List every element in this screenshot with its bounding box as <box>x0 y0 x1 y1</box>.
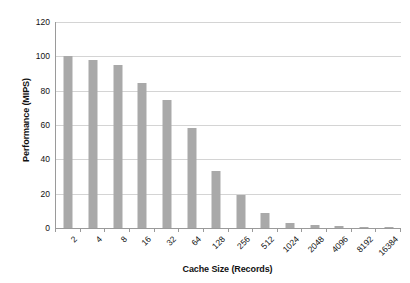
x-axis-tick <box>277 228 278 232</box>
bar-slot <box>352 22 377 228</box>
x-axis-tick <box>154 228 155 232</box>
x-axis-tick-label: 2 <box>69 234 79 244</box>
x-axis-tick-label: 512 <box>259 234 276 251</box>
x-axis-title: Cache Size (Records) <box>55 264 400 274</box>
x-axis-tick-label: 4 <box>94 234 104 244</box>
x-axis-tick-label: 8192 <box>355 234 375 254</box>
x-axis-tick <box>129 228 130 232</box>
y-axis-tick-label: 60 <box>20 120 50 130</box>
x-axis-tick-labels: 248163264128256512102420484096819216384 <box>55 234 400 264</box>
y-axis-tick-label: 100 <box>20 51 50 61</box>
plot-area <box>55 22 401 229</box>
bar <box>138 83 147 228</box>
x-axis-tick <box>301 228 302 232</box>
y-axis-tick-label: 0 <box>20 223 50 233</box>
x-axis-tick <box>80 228 81 232</box>
bar-slot <box>229 22 254 228</box>
y-axis-tick-label: 80 <box>20 86 50 96</box>
y-axis-tick-label: 20 <box>20 189 50 199</box>
bar-slot <box>81 22 106 228</box>
x-axis-tick <box>178 228 179 232</box>
x-axis-tick-label: 4096 <box>330 234 350 254</box>
x-axis-tick-label: 8 <box>118 234 128 244</box>
bar <box>187 128 196 228</box>
bar <box>212 171 221 228</box>
bar-chart: Performance (MIPS) 020406080100120 24816… <box>0 0 410 283</box>
y-axis-tick-labels: 020406080100120 <box>20 0 50 283</box>
bar <box>64 56 73 228</box>
bar <box>162 100 171 228</box>
x-axis-ticks <box>55 228 400 233</box>
x-axis-tick <box>351 228 352 232</box>
bar <box>236 195 245 228</box>
bar-slot <box>179 22 204 228</box>
bar <box>261 213 270 228</box>
x-axis-tick <box>203 228 204 232</box>
x-axis-tick <box>104 228 105 232</box>
bar <box>88 60 97 228</box>
x-axis-tick-label: 16 <box>140 234 154 248</box>
y-axis-tick-label: 40 <box>20 154 50 164</box>
x-axis-tick-label: 1024 <box>281 234 301 254</box>
x-axis-tick <box>375 228 376 232</box>
x-axis-tick <box>55 228 56 232</box>
bar-slot <box>56 22 81 228</box>
x-axis-tick-label: 2048 <box>305 234 325 254</box>
bar-slot <box>253 22 278 228</box>
bar-slot <box>204 22 229 228</box>
x-axis-tick-label: 32 <box>164 234 178 248</box>
x-axis-tick-label: 256 <box>235 234 252 251</box>
x-axis-tick-label: 16384 <box>376 234 400 258</box>
bar-slot <box>130 22 155 228</box>
x-axis-tick <box>252 228 253 232</box>
bar-slot <box>327 22 352 228</box>
bar-slot <box>376 22 401 228</box>
bar-slot <box>278 22 303 228</box>
bar-slot <box>302 22 327 228</box>
x-axis-tick-label: 128 <box>210 234 227 251</box>
x-axis-tick <box>400 228 401 232</box>
bar-slot <box>105 22 130 228</box>
bar <box>113 65 122 228</box>
y-axis-tick-label: 120 <box>20 17 50 27</box>
bar-series <box>56 22 401 228</box>
x-axis-tick <box>326 228 327 232</box>
x-axis-tick-label: 64 <box>189 234 203 248</box>
bar-slot <box>155 22 180 228</box>
x-axis-tick <box>228 228 229 232</box>
